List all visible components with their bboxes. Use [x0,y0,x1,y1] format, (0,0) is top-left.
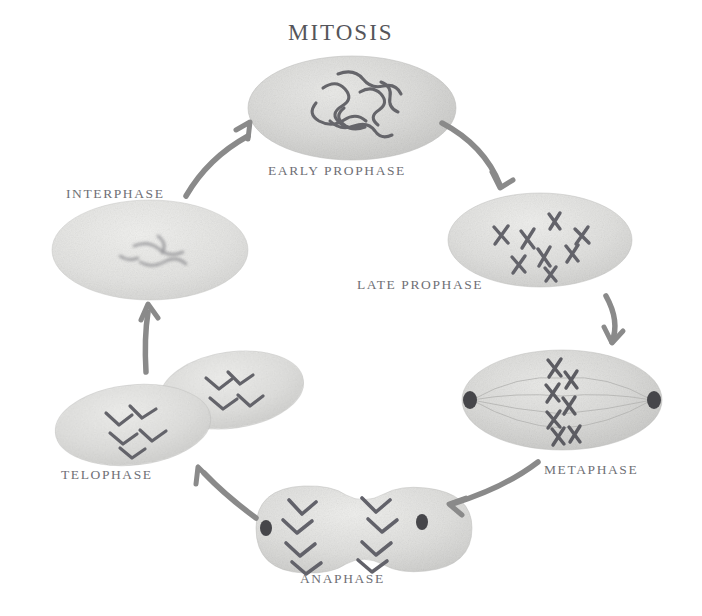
arrow-interphase-to-early [186,122,250,196]
cycle-arrows [141,122,623,518]
arrow-anaphase-to-telophase [196,467,256,518]
cell-interphase [52,200,248,300]
cell-telophase [51,342,308,473]
arrow-late-to-metaphase [604,296,623,343]
centrosome-left-metaphase [463,391,477,409]
cell-metaphase [462,350,662,450]
stage-label-interphase: INTERPHASE [66,186,165,202]
stage-label-telophase: TELOPHASE [61,467,153,483]
arrow-early-to-late [442,123,513,188]
centrosome-right-anaphase [416,514,428,530]
cell-early-prophase [248,56,456,160]
stage-label-anaphase: ANAPHASE [300,571,385,587]
stage-label-metaphase: METAPHASE [544,462,638,478]
page-title: MITOSIS [288,20,394,46]
cell-late-prophase [448,193,632,287]
cell-anaphase [256,486,472,574]
centrosome-right-metaphase [647,391,661,409]
mitosis-diagram: MITOSIS EARLY PROPHASE LATE PROPHASE MET… [0,0,702,616]
mitosis-cycle-illustration [0,0,702,616]
centrosome-left-anaphase [260,520,272,536]
stage-label-late-prophase: LATE PROPHASE [357,277,483,293]
arrow-telophase-to-interphase [141,304,158,372]
stage-label-early-prophase: EARLY PROPHASE [268,163,406,179]
